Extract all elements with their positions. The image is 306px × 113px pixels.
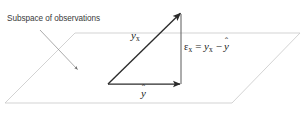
term1-subscript: x (209, 45, 213, 54)
yhat-symbol: y (141, 87, 146, 99)
epsilon-symbol: ε (184, 41, 188, 52)
equals-sign: = (195, 40, 201, 52)
residual-equation-label: εx=yx−ŷ (184, 41, 229, 53)
subspace-caption-label: Subspace of observations (7, 15, 100, 23)
minus-sign: − (216, 40, 222, 52)
yhat-label: ŷ (141, 88, 146, 99)
yx-vector-arrow (108, 13, 180, 84)
subspace-plane-shape (5, 33, 300, 103)
yx-label: yx (131, 30, 140, 42)
yx-subscript: x (136, 34, 140, 43)
vector-decomposition-figure: Subspace of observations yx ŷ εx=yx−ŷ (0, 0, 306, 113)
epsilon-subscript: x (189, 45, 193, 54)
term2-symbol: y (224, 40, 229, 52)
